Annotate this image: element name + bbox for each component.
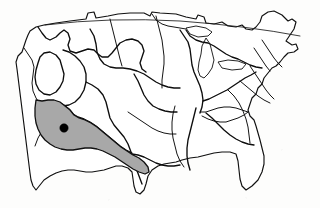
study-site-marker-group[interactable] <box>60 124 68 132</box>
us-basin-map <box>0 0 320 208</box>
study-site-marker[interactable] <box>60 124 68 132</box>
map-figure <box>0 0 320 208</box>
